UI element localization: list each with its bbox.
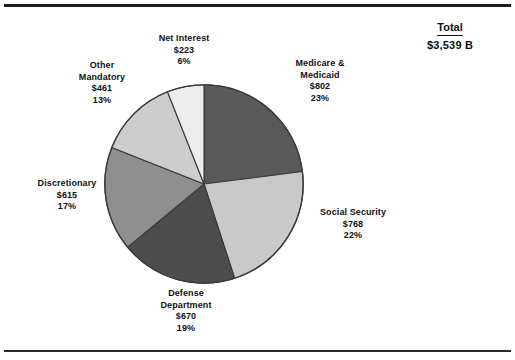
slice-label-net-interest: Net Interest $223 6%	[136, 33, 232, 68]
slice-label-percent: 19%	[136, 323, 236, 335]
slice-label-medicare-medicaid: Medicare & Medicaid $802 23%	[272, 58, 368, 104]
slice-label-line2: Department	[136, 300, 236, 312]
slice-label-line1: Other	[58, 60, 146, 72]
slice-label-line1: Medicare &	[272, 58, 368, 70]
slice-label-line2: Medicaid	[272, 70, 368, 82]
slice-label-line1: Discretionary	[18, 178, 116, 190]
slice-label-value: $768	[300, 219, 406, 231]
slice-label-value: $802	[272, 81, 368, 93]
slice-label-percent: 13%	[58, 95, 146, 107]
total-block: Total $3,539 B	[400, 20, 500, 53]
slice-label-percent: 6%	[136, 56, 232, 68]
slice-label-value: $670	[136, 311, 236, 323]
slice-label-percent: 22%	[300, 230, 406, 242]
slice-label-percent: 17%	[18, 201, 116, 213]
slice-label-value: $461	[58, 83, 146, 95]
total-label: Total	[437, 20, 462, 36]
slice-label-percent: 23%	[272, 93, 368, 105]
page-top-rule	[4, 4, 511, 7]
slice-label-line1: Social Security	[300, 207, 406, 219]
slice-label-discretionary: Discretionary $615 17%	[18, 178, 116, 213]
pie-chart	[104, 84, 304, 284]
slice-label-social-security: Social Security $768 22%	[300, 207, 406, 242]
pie-chart-svg	[104, 84, 304, 284]
total-value: $3,539 B	[400, 38, 500, 53]
slice-label-line2: Mandatory	[58, 72, 146, 84]
slice-label-other-mandatory: Other Mandatory $461 13%	[58, 60, 146, 106]
page-bottom-rule	[4, 350, 511, 352]
slice-label-value: $223	[136, 45, 232, 57]
slice-label-line1: Defense	[136, 288, 236, 300]
slice-label-line1: Net Interest	[136, 33, 232, 45]
slice-label-value: $615	[18, 190, 116, 202]
chart-page: Medicare & Medicaid $802 23% Social Secu…	[0, 0, 515, 360]
slice-label-defense-department: Defense Department $670 19%	[136, 288, 236, 334]
